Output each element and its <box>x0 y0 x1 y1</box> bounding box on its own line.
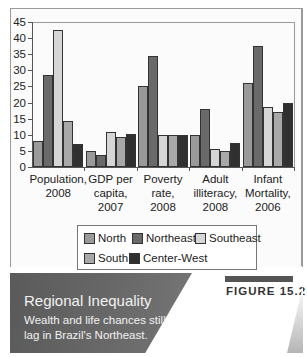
x-tick-mark <box>242 167 243 171</box>
legend-swatch <box>195 233 206 244</box>
bar-center-west <box>230 143 240 167</box>
legend-swatch <box>84 233 95 244</box>
legend-swatch <box>84 253 95 264</box>
y-tick-label: 40 <box>0 32 26 44</box>
bar-south <box>220 151 230 167</box>
bar-southeast <box>263 107 273 167</box>
y-tick-mark <box>28 86 32 87</box>
legend-item-south: South <box>84 252 128 264</box>
bar-southeast <box>53 30 63 167</box>
bar-northeast <box>96 155 106 167</box>
y-tick-label: 35 <box>0 48 26 60</box>
x-category-label: Adultilliteracy,2008 <box>185 172 245 214</box>
y-tick-label: 15 <box>0 113 26 125</box>
bar-northeast <box>200 109 210 167</box>
y-tick-mark <box>28 54 32 55</box>
bar-northeast <box>253 46 263 167</box>
y-tick-mark <box>28 70 32 71</box>
legend-swatch <box>129 253 140 264</box>
bar-north <box>138 86 148 167</box>
bar-northeast <box>148 56 158 167</box>
y-tick-label: 5 <box>0 145 26 157</box>
y-tick-mark <box>28 119 32 120</box>
legend-item-southeast: Southeast <box>195 232 261 244</box>
y-tick-mark <box>28 22 32 23</box>
caption-subtitle: Wealth and life chances still lag in Bra… <box>24 313 184 343</box>
legend-label: Southeast <box>209 232 261 244</box>
y-tick-label: 25 <box>0 80 26 92</box>
caption-title: Regional Inequality <box>24 292 152 309</box>
bar-north <box>86 151 96 167</box>
legend-label: North <box>98 232 126 244</box>
y-tick-label: 30 <box>0 64 26 76</box>
x-axis <box>32 167 294 168</box>
x-tick-mark <box>137 167 138 171</box>
y-tick-label: 10 <box>0 129 26 141</box>
y-tick-mark <box>28 103 32 104</box>
bar-southeast <box>106 132 116 167</box>
x-category-label: Population,2008 <box>28 172 88 200</box>
bar-north <box>190 135 200 167</box>
bar-south <box>116 137 126 167</box>
bar-south <box>273 112 283 167</box>
y-tick-label: 20 <box>0 97 26 109</box>
figure-label: FIGURE 15.2 <box>226 285 306 297</box>
y-tick-mark <box>28 135 32 136</box>
x-category-label: InfantMortality,2006 <box>238 172 298 214</box>
bar-southeast <box>158 135 168 167</box>
y-tick-mark <box>28 38 32 39</box>
y-tick-label: 0 <box>0 161 26 173</box>
figure-label-bar <box>225 276 293 282</box>
legend-item-center-west: Center-West <box>129 252 207 264</box>
bar-southeast <box>210 149 220 167</box>
x-category-label: GDP percapita,2007 <box>81 172 141 214</box>
legend-label: Northeast <box>146 232 196 244</box>
legend-item-north: North <box>84 232 126 244</box>
bar-south <box>63 121 73 167</box>
x-tick-mark <box>189 167 190 171</box>
bar-center-west <box>126 134 136 167</box>
bar-northeast <box>43 75 53 167</box>
bar-north <box>33 141 43 167</box>
bar-center-west <box>178 135 188 167</box>
x-tick-mark <box>84 167 85 171</box>
y-tick-mark <box>28 167 32 168</box>
x-category-label: Povertyrate,2008 <box>133 172 193 214</box>
y-tick-mark <box>28 151 32 152</box>
x-tick-mark <box>294 167 295 171</box>
bar-center-west <box>73 144 83 167</box>
bar-north <box>243 83 253 167</box>
legend-item-northeast: Northeast <box>132 232 196 244</box>
frame-right-edge <box>301 8 302 266</box>
bar-south <box>168 135 178 167</box>
legend-label: Center-West <box>143 252 207 264</box>
legend-label: South <box>98 252 128 264</box>
chart-legend: North Northeast Southeast South Center-W… <box>77 225 257 270</box>
bar-center-west <box>283 103 293 167</box>
legend-swatch <box>132 233 143 244</box>
y-tick-label: 45 <box>0 16 26 28</box>
